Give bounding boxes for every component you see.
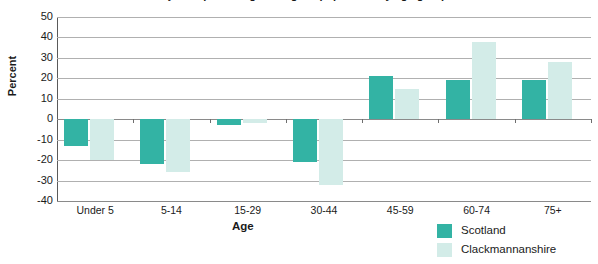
gridline [57,17,591,18]
y-axis-tick-label: -30 [7,175,53,186]
y-axis-tick-label: 50 [7,11,53,22]
y-axis-tick-label: -40 [7,195,53,206]
bar-scotland-75[interactable] [522,80,546,119]
x-axis-label-75: 75+ [544,204,562,216]
x-axis-tick [591,119,592,123]
legend-swatch-clackmannanshire [437,243,452,257]
legend-label-clackmannanshire: Clackmannanshire [461,244,556,256]
bar-scotland-30-44[interactable] [293,119,317,162]
legend-item-scotland[interactable]: Scotland [437,221,556,240]
x-axis-label-60-74: 60-74 [463,204,490,216]
x-axis-tick [362,119,363,123]
y-axis-tick-label: -10 [7,134,53,145]
chart-title: Projected percentage change in populatio… [0,0,598,1]
bar-scotland-15-29[interactable] [217,119,241,125]
y-axis-tick-label: -20 [7,154,53,165]
bar-clackmannanshire-5-14[interactable] [166,119,190,172]
gridline [57,58,591,59]
bar-clackmannanshire-30-44[interactable] [319,119,343,184]
bar-clackmannanshire-60-74[interactable] [472,42,496,120]
bar-scotland-5-14[interactable] [140,119,164,164]
x-axis-label-45-59: 45-59 [387,204,414,216]
x-axis-title: Age [232,220,254,232]
y-axis-tick-label: 20 [7,72,53,83]
y-axis-tick-labels: 50403020100-10-20-30-40 [0,0,57,264]
x-axis-label-under-5: Under 5 [76,204,113,216]
legend-item-clackmannanshire[interactable]: Clackmannanshire [437,240,556,259]
bar-scotland-under-5[interactable] [64,119,88,146]
x-axis-tick [286,119,287,123]
bar-clackmannanshire-45-59[interactable] [395,89,419,120]
bar-clackmannanshire-under-5[interactable] [90,119,114,160]
bar-clackmannanshire-75[interactable] [548,62,572,119]
legend-label-scotland: Scotland [461,225,506,237]
y-axis-tick-label: 40 [7,31,53,42]
y-axis-tick-label: 0 [7,113,53,124]
bar-scotland-60-74[interactable] [446,80,470,119]
bar-clackmannanshire-15-29[interactable] [243,119,267,123]
gridline [57,78,591,79]
chart-legend: Scotland Clackmannanshire [437,221,556,259]
x-axis-tick [133,119,134,123]
y-axis-tick-label: 10 [7,93,53,104]
x-axis-tick [210,119,211,123]
plot-area [57,17,591,201]
x-axis-label-15-29: 15-29 [234,204,261,216]
legend-swatch-scotland [437,224,452,238]
gridline [57,99,591,100]
x-axis-tick [515,119,516,123]
bar-scotland-45-59[interactable] [369,76,393,119]
gridline [57,37,591,38]
x-axis-tick [438,119,439,123]
gridline [57,201,591,202]
y-axis-tick-label: 30 [7,52,53,63]
x-axis-label-30-44: 30-44 [311,204,338,216]
x-axis-label-5-14: 5-14 [161,204,182,216]
